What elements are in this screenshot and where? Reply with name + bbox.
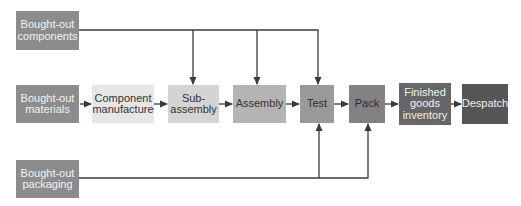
test-box: Test bbox=[300, 85, 334, 123]
components-to-test-arrow bbox=[79, 30, 318, 84]
finished-goods-inventory-box: Finished goods inventory bbox=[399, 83, 451, 125]
pack-label: Pack bbox=[355, 98, 379, 110]
test-label: Test bbox=[307, 98, 327, 110]
component-manufacture-label: Component manufacture bbox=[92, 93, 153, 116]
despatch-box: Despatch bbox=[462, 84, 508, 124]
sub-assembly-label: Sub- assembly bbox=[170, 93, 216, 116]
component-manufacture-box: Component manufacture bbox=[92, 85, 154, 123]
pack-box: Pack bbox=[349, 85, 385, 123]
finished-goods-inventory-label: Finished goods inventory bbox=[403, 87, 448, 122]
despatch-label: Despatch bbox=[462, 98, 508, 110]
assembly-box: Assembly bbox=[233, 85, 286, 123]
assembly-label: Assembly bbox=[236, 98, 284, 110]
packaging-to-pack-arrow bbox=[79, 124, 368, 178]
bought-out-packaging-label: Bought-out packaging bbox=[21, 168, 75, 191]
bought-out-materials-label: Bought-out materials bbox=[21, 93, 75, 116]
sub-assembly-box: Sub- assembly bbox=[168, 85, 219, 123]
bought-out-materials-box: Bought-out materials bbox=[16, 85, 79, 123]
bought-out-components-box: Bought-out components bbox=[16, 11, 79, 50]
bought-out-components-label: Bought-out components bbox=[18, 19, 78, 42]
bought-out-packaging-box: Bought-out packaging bbox=[16, 160, 79, 198]
